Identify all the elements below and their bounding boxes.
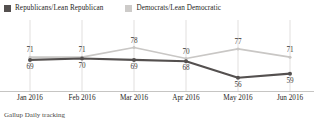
data-point (28, 58, 32, 62)
x-axis-tick-label: Apr 2016 (172, 93, 199, 103)
x-axis-labels: Jan 2016Feb 2016Mar 2016Apr 2016May 2016… (0, 93, 314, 107)
data-value-label: 70 (182, 48, 189, 56)
data-value-label: 71 (78, 46, 85, 54)
legend-label-republican: Republicans/Lean Republican (15, 4, 103, 13)
x-axis-tick-label: Feb 2016 (69, 93, 96, 103)
data-value-label: 56 (234, 81, 241, 89)
data-value-label: 68 (182, 64, 189, 72)
x-axis-tick-label: Mar 2016 (120, 93, 148, 103)
x-axis-tick-label: May 2016 (223, 93, 252, 103)
data-value-label: 69 (130, 63, 137, 71)
data-value-label: 59 (286, 77, 293, 85)
legend-swatch-democrat-icon (125, 5, 132, 12)
series-line-democrat (30, 48, 290, 59)
legend-item-democrat: Democrats/Lean Democratic (125, 4, 221, 13)
gridlines (30, 20, 290, 92)
x-axis-tick-label: Jun 2016 (277, 93, 303, 103)
data-point (132, 58, 136, 62)
chart-svg (0, 16, 314, 92)
data-value-label: 69 (26, 63, 33, 71)
data-value-label: 77 (234, 38, 241, 46)
data-point (80, 57, 84, 61)
legend-swatch-republican-icon (4, 5, 11, 12)
data-point (237, 47, 240, 50)
data-value-label: 71 (286, 46, 293, 54)
x-axis-tick-label: Jan 2016 (17, 93, 43, 103)
chart-plot-area: 697069685659717178707771 (0, 16, 314, 92)
chart-container: Republicans/Lean Republican Democrats/Le… (0, 0, 314, 127)
series-line-republican (30, 59, 290, 78)
data-value-label: 70 (78, 62, 85, 70)
data-point (184, 59, 188, 63)
chart-legend: Republicans/Lean Republican Democrats/Le… (0, 2, 314, 15)
data-point (236, 76, 240, 80)
data-point (289, 56, 292, 59)
data-point (288, 72, 292, 76)
data-point (133, 46, 136, 49)
legend-label-democrat: Democrats/Lean Democratic (136, 4, 221, 13)
legend-item-republican: Republicans/Lean Republican (4, 4, 103, 13)
data-value-label: 78 (130, 37, 137, 45)
chart-footnote: Gallup Daily tracking (4, 110, 65, 120)
data-value-label: 71 (26, 46, 33, 54)
